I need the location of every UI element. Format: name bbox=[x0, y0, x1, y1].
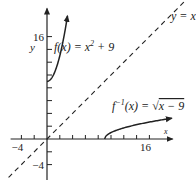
curve-finv bbox=[105, 118, 172, 139]
curve-identity bbox=[0, 0, 196, 180]
label-finv-radicand: x − 9 bbox=[158, 99, 184, 113]
label-f-tail: + 9 bbox=[94, 40, 114, 54]
label-finv-sup: −1 bbox=[115, 98, 124, 107]
curves bbox=[0, 0, 196, 180]
function-graph: −41616−4 y x f(x) = x2 + 9 f−1(x) = √x −… bbox=[0, 0, 196, 180]
x-axis-label: x bbox=[163, 127, 168, 136]
label-finv-tail: (x) = √ bbox=[125, 99, 159, 113]
x-tick-label: 16 bbox=[140, 141, 152, 153]
label-f-main: f(x) = x bbox=[54, 40, 91, 54]
label-finv: f−1(x) = √x − 9 bbox=[112, 98, 184, 113]
x-tick-label: −4 bbox=[12, 141, 24, 153]
y-tick-label: −4 bbox=[32, 159, 44, 171]
label-identity: y = x bbox=[170, 9, 196, 23]
label-f: f(x) = x2 + 9 bbox=[54, 39, 114, 54]
y-axis-label: y bbox=[29, 41, 35, 53]
